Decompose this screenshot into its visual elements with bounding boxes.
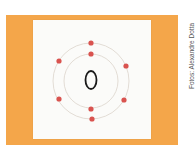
photo-credit: Fotos: Alexandre Dotta xyxy=(186,16,196,96)
electron-icon xyxy=(121,97,126,102)
electron-icon xyxy=(88,51,93,56)
electron-icon xyxy=(56,58,61,63)
bohr-atom-diagram xyxy=(0,0,196,148)
electron-icon xyxy=(88,40,93,45)
electron-icon xyxy=(88,106,93,111)
electron-icon xyxy=(123,63,128,68)
nucleus-o-symbol xyxy=(86,71,97,89)
electron-icon xyxy=(56,96,61,101)
electron-icon xyxy=(89,116,94,121)
inner-orbit xyxy=(64,54,118,108)
photo-credit-text: Fotos: Alexandre Dotta xyxy=(188,23,195,89)
